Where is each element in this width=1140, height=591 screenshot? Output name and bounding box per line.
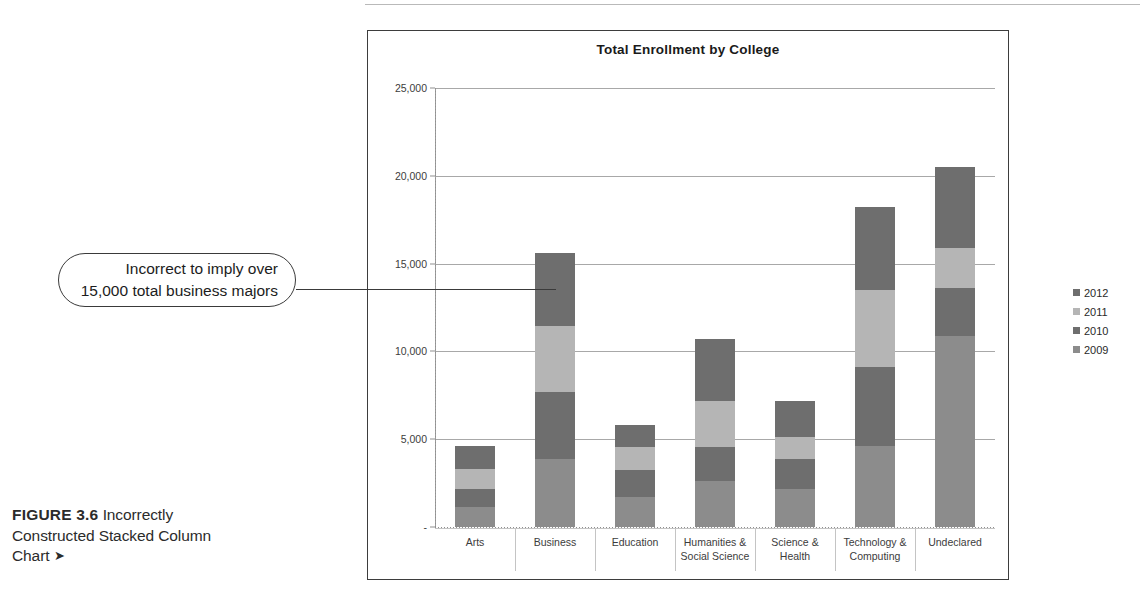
x-axis-label: Undeclared (915, 535, 995, 549)
x-tick-separator (915, 529, 916, 571)
bar-segment[interactable] (775, 401, 815, 437)
bar-segment[interactable] (535, 459, 575, 527)
bar-segment[interactable] (695, 447, 735, 481)
y-tick-label: - (424, 521, 428, 533)
bar-group[interactable] (435, 88, 515, 527)
bar-segment[interactable] (695, 481, 735, 527)
bar-stack[interactable] (535, 253, 575, 527)
x-tick-separator (595, 529, 596, 571)
x-axis-label-line: Undeclared (915, 535, 995, 549)
bar-segment[interactable] (775, 489, 815, 527)
legend-swatch-icon (1073, 289, 1080, 296)
bar-group[interactable] (515, 88, 595, 527)
legend-item[interactable]: 2012 (1073, 283, 1108, 302)
legend-label: 2012 (1084, 287, 1108, 299)
bar-segment[interactable] (935, 248, 975, 288)
x-axis-label: Education (595, 535, 675, 549)
bar-segment[interactable] (535, 326, 575, 392)
y-tick-label: 25,000 (395, 82, 427, 94)
bar-segment[interactable] (935, 167, 975, 248)
bar-segment[interactable] (455, 489, 495, 507)
bar-stack[interactable] (695, 339, 735, 527)
bar-group[interactable] (835, 88, 915, 527)
bar-segment[interactable] (695, 401, 735, 447)
x-axis-label-line: Education (595, 535, 675, 549)
bar-segment[interactable] (775, 437, 815, 459)
callout-leader-line (296, 289, 556, 290)
legend-swatch-icon (1073, 327, 1080, 334)
x-axis-label-line: Science & (755, 535, 835, 549)
bar-stack[interactable] (855, 207, 895, 527)
y-tick-label: 15,000 (395, 258, 427, 270)
x-axis-label: Arts (435, 535, 515, 549)
callout-balloon (58, 253, 296, 307)
plot-area: 25,00020,00015,00010,0005,000- (435, 88, 995, 527)
x-axis-label-line: Humanities & (675, 535, 755, 549)
bar-segment[interactable] (615, 425, 655, 447)
x-axis-label: Business (515, 535, 595, 549)
x-axis-label-line: Business (515, 535, 595, 549)
x-axis-label: Technology &Computing (835, 535, 915, 563)
x-axis-label-line: Arts (435, 535, 515, 549)
bar-group[interactable] (915, 88, 995, 527)
bar-segment[interactable] (695, 339, 735, 401)
bar-segment[interactable] (535, 392, 575, 460)
figure-caption: FIGURE 3.6 Incorrectly Constructed Stack… (12, 505, 242, 567)
page-top-rule (365, 4, 1140, 5)
bar-segment[interactable] (855, 446, 895, 527)
bar-segment[interactable] (455, 507, 495, 527)
legend-swatch-icon (1073, 308, 1080, 315)
x-axis-label: Science &Health (755, 535, 835, 563)
bar-segment[interactable] (615, 497, 655, 527)
x-axis-label-line: Computing (835, 549, 915, 563)
bar-segment[interactable] (855, 207, 895, 290)
bar-segment[interactable] (855, 290, 895, 367)
x-tick-separator (835, 529, 836, 571)
legend-label: 2009 (1084, 344, 1108, 356)
bars-layer (435, 88, 995, 527)
legend-item[interactable]: 2011 (1073, 302, 1108, 321)
x-axis-labels: ArtsBusinessEducationHumanities &Social … (435, 529, 995, 573)
y-tick-label: 10,000 (395, 345, 427, 357)
y-tick-label: 20,000 (395, 170, 427, 182)
bar-stack[interactable] (775, 401, 815, 527)
x-axis-label-line: Technology & (835, 535, 915, 549)
chart-title: Total Enrollment by College (367, 42, 1009, 57)
bar-group[interactable] (675, 88, 755, 527)
x-axis-label: Humanities &Social Science (675, 535, 755, 563)
bar-group[interactable] (755, 88, 835, 527)
legend-item[interactable]: 2010 (1073, 321, 1108, 340)
bar-segment[interactable] (455, 446, 495, 469)
legend-item[interactable]: 2009 (1073, 340, 1108, 359)
legend-swatch-icon (1073, 346, 1080, 353)
bar-segment[interactable] (455, 469, 495, 489)
legend-label: 2010 (1084, 325, 1108, 337)
bar-segment[interactable] (615, 470, 655, 497)
bar-stack[interactable] (615, 425, 655, 527)
figure-arrow-icon: ➤ (54, 548, 65, 563)
bar-segment[interactable] (935, 288, 975, 335)
bar-segment[interactable] (935, 336, 975, 527)
bar-segment[interactable] (855, 367, 895, 446)
chart-legend: 2012201120102009 (1073, 283, 1108, 359)
y-axis-line (435, 88, 436, 528)
x-axis-label-line: Social Science (675, 549, 755, 563)
bar-segment[interactable] (615, 447, 655, 470)
x-tick-separator (675, 529, 676, 571)
bar-group[interactable] (595, 88, 675, 527)
x-axis-label-line: Health (755, 549, 835, 563)
bar-stack[interactable] (935, 167, 975, 527)
bar-segment[interactable] (775, 459, 815, 490)
y-tick-label: 5,000 (401, 433, 427, 445)
bar-stack[interactable] (455, 446, 495, 527)
x-tick-separator (755, 529, 756, 571)
legend-label: 2011 (1084, 306, 1108, 318)
x-tick-separator (515, 529, 516, 571)
figure-label: FIGURE 3.6 (12, 506, 98, 523)
